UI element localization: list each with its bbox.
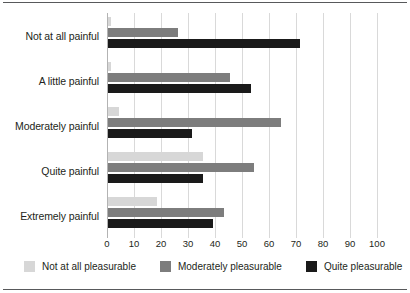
category-label: Not at all painful	[26, 30, 100, 42]
chart-legend: Not at all pleasurableModerately pleasur…	[24, 258, 400, 274]
bar	[108, 219, 213, 228]
category-group: Moderately painful	[107, 103, 377, 148]
legend-swatch-icon	[160, 261, 171, 272]
bar	[108, 129, 192, 138]
bar	[108, 28, 178, 37]
x-tick-label: 50	[237, 238, 248, 249]
legend-swatch-icon	[306, 261, 317, 272]
x-tick-label: 90	[345, 238, 356, 249]
x-tick-label: 40	[210, 238, 221, 249]
category-label: Quite painful	[41, 165, 99, 177]
category-label: A little painful	[39, 75, 99, 87]
legend-item[interactable]: Quite pleasurable	[306, 261, 402, 272]
legend-swatch-icon	[24, 261, 35, 272]
legend-label: Quite pleasurable	[324, 261, 402, 272]
bar	[108, 39, 300, 48]
bar	[108, 152, 203, 161]
bottom-divider-rule	[3, 289, 407, 290]
plot-area: Not at all painfulA little painfulModera…	[107, 13, 377, 238]
category-label: Extremely painful	[20, 210, 99, 222]
bar	[108, 84, 251, 93]
x-axis-tick-labels: 0102030405060708090100	[107, 238, 377, 252]
bar	[108, 197, 157, 206]
bar	[108, 17, 111, 26]
legend-label: Not at all pleasurable	[42, 261, 136, 272]
bar	[108, 163, 254, 172]
bar	[108, 107, 119, 116]
x-tick-label: 10	[129, 238, 140, 249]
bar	[108, 73, 230, 82]
category-group: Extremely painful	[107, 193, 377, 238]
bar	[108, 208, 224, 217]
x-tick-label: 60	[264, 238, 275, 249]
x-tick-label: 100	[369, 238, 385, 249]
legend-item[interactable]: Not at all pleasurable	[24, 261, 136, 272]
x-tick-label: 20	[156, 238, 167, 249]
legend-item[interactable]: Moderately pleasurable	[160, 261, 282, 272]
bar-chart-figure: Not at all painfulA little painfulModera…	[0, 0, 410, 293]
category-label: Moderately painful	[15, 120, 99, 132]
category-group: Not at all painful	[107, 13, 377, 58]
category-group: A little painful	[107, 58, 377, 103]
top-divider-rule	[3, 2, 407, 3]
gridline	[377, 13, 378, 238]
bar	[108, 174, 203, 183]
bar	[108, 62, 111, 71]
x-tick-label: 30	[183, 238, 194, 249]
category-group: Quite painful	[107, 148, 377, 193]
x-tick-label: 70	[291, 238, 302, 249]
legend-label: Moderately pleasurable	[178, 261, 282, 272]
x-tick-label: 0	[104, 238, 109, 249]
bar	[108, 118, 281, 127]
x-tick-label: 80	[318, 238, 329, 249]
